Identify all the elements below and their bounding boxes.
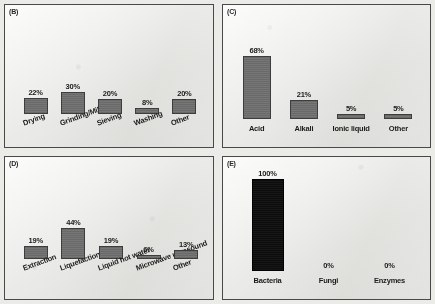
category-label: Drying [22,112,46,127]
panel-e-tag: (E) [227,160,236,167]
category-label: Fungi [319,277,338,285]
bar-value-label: 30% [66,83,80,91]
category-label: Alkali [294,125,313,133]
bar-value-label: 5% [346,105,356,113]
bar-value-label: 20% [177,90,191,98]
bar-group: 100% [252,170,284,272]
bar-group: 44% [61,219,85,260]
panel-c-tag: (C) [227,8,236,15]
panel-b-plot: 22%Drying30%Grinding/Milling20%Sieving8%… [5,5,213,147]
bar-value-label: 0% [323,262,333,270]
bar-group: 0% [313,262,345,272]
bar-value-label: 20% [103,90,117,98]
bar-group: 13% [174,241,198,260]
category-label: Enzymes [374,277,405,285]
panel-d: (D) 19%Extraction44%Liquefaction19%Liqui… [4,156,214,300]
bar-group: 30% [61,83,85,115]
bar [243,56,271,119]
bar-group: 20% [172,90,196,115]
bar-value-label: 13% [179,241,193,249]
bar-value-label: 19% [29,237,43,245]
bar-value-label: 22% [28,89,42,97]
category-label: Acid [249,125,264,133]
panel-c: (C) 68%Acid21%Alkali5%Ionic liquid5%Othe… [222,4,431,148]
bar-value-label: 5% [393,105,403,113]
bar-value-label: 44% [66,219,80,227]
bar-group: 22% [24,89,48,115]
category-label: Other [389,125,408,133]
panel-c-plot: 68%Acid21%Alkali5%Ionic liquid5%Other [223,5,430,147]
panel-b: (B) 22%Drying30%Grinding/Milling20%Sievi… [4,4,214,148]
panel-e: (E) 100%Bacteria0%Fungi0%Enzymes [222,156,431,300]
category-label: Other [170,114,191,128]
figure-page: (B) 22%Drying30%Grinding/Milling20%Sievi… [0,0,435,304]
panel-d-plot: 19%Extraction44%Liquefaction19%Liquid ho… [5,157,213,299]
bar-group: 21% [290,91,318,120]
bar [172,99,196,114]
bar-value-label: 6% [143,246,153,254]
bar [24,98,48,114]
bar-value-label: 68% [249,47,263,55]
category-label: Other [172,259,193,273]
panel-b-tag: (B) [9,8,18,15]
panel-d-tag: (D) [9,160,18,167]
bar-group: 5% [384,105,412,120]
bar [252,179,284,271]
bar-value-label: 100% [258,170,276,178]
bar-group: 0% [374,262,406,272]
bar [384,114,412,119]
bar [337,114,365,119]
bar-value-label: 19% [104,237,118,245]
category-label: Ionic liquid [333,125,370,133]
bar-group: 68% [243,47,271,120]
bar-value-label: 0% [384,262,394,270]
bar-group: 5% [337,105,365,120]
bar-value-label: 8% [142,99,152,107]
panel-e-plot: 100%Bacteria0%Fungi0%Enzymes [223,157,430,299]
bar-value-label: 21% [297,91,311,99]
bar [290,100,318,119]
category-label: Bacteria [253,277,281,285]
panel-grid: (B) 22%Drying30%Grinding/Milling20%Sievi… [0,0,435,304]
